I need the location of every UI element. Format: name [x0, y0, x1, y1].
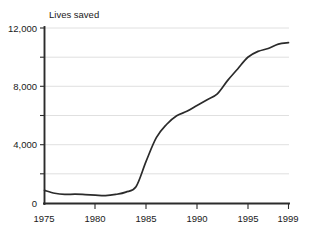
x-tick-label-1985: 1985 [135, 213, 156, 224]
x-tick-label-1999: 1999 [277, 213, 298, 224]
y-tick-labels-group: 12,000 8,000 4,000 0 [8, 23, 37, 210]
x-tick-labels-group: 1975 1980 1985 1990 1995 1999 [33, 213, 298, 224]
data-series-line [45, 43, 289, 196]
x-tick-label-1975: 1975 [33, 213, 54, 224]
y-tick-label-8000: 8,000 [13, 81, 37, 92]
y-tick-label-0: 0 [32, 198, 37, 209]
x-tick-label-1995: 1995 [237, 213, 258, 224]
y-tick-label-12000: 12,000 [8, 23, 37, 34]
y-tick-marks-group [40, 28, 44, 174]
line-chart-figure: 12,000 8,000 4,000 0 1975 1980 1985 1990… [0, 0, 310, 242]
x-tick-label-1990: 1990 [186, 213, 207, 224]
x-tick-label-1980: 1980 [84, 213, 105, 224]
y-axis-title: Lives saved [49, 9, 99, 20]
x-tick-marks-group [95, 204, 289, 209]
y-tick-label-4000: 4,000 [13, 139, 37, 150]
chart-canvas: 12,000 8,000 4,000 0 1975 1980 1985 1990… [0, 0, 310, 242]
gridlines-group [44, 28, 289, 174]
